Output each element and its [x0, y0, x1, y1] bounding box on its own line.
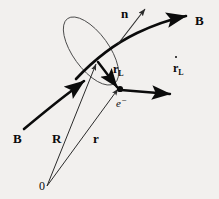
label-larmor-radius-subscript: L	[118, 69, 123, 78]
gyro-orbit-ellipse	[53, 8, 129, 94]
label-origin: 0	[39, 180, 45, 192]
overdot-icon	[175, 56, 177, 58]
magnetic-field-line-upper	[76, 16, 186, 79]
larmor-velocity-vector	[121, 90, 170, 94]
label-position-vector: r	[93, 132, 99, 145]
label-larmor-velocity-subscript: L	[178, 68, 183, 77]
physics-vector-diagram: B B n rL rL R r 0 e−	[0, 0, 219, 199]
label-larmor-velocity: rL	[173, 62, 184, 74]
electron-point	[117, 86, 123, 92]
diagram-canvas	[0, 0, 219, 199]
label-b-field-bottom: B	[13, 132, 22, 145]
label-normal-vector: n	[121, 7, 128, 20]
label-b-field-top: B	[195, 14, 204, 27]
label-electron: e−	[116, 98, 127, 109]
label-electron-charge: −	[121, 95, 127, 105]
label-guiding-center-vector: R	[52, 132, 61, 145]
magnetic-field-line-lower	[24, 81, 84, 129]
label-larmor-radius: rL	[113, 63, 124, 75]
guiding-center-vector	[47, 64, 96, 186]
